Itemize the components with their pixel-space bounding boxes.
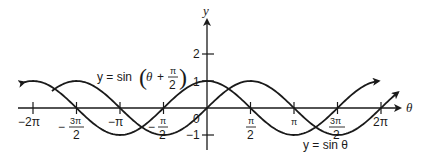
- sine-graph: y θ 2 1 −1 0 −2π − 3π 2 −π − π 2 π 2 π 3…: [0, 0, 424, 161]
- svg-text:π: π: [160, 116, 166, 126]
- x-tick-negpi: −π: [108, 115, 123, 129]
- x-tick-pi: π: [291, 117, 297, 127]
- y-tick-2: 2: [193, 47, 200, 61]
- svg-text:3π: 3π: [70, 116, 81, 126]
- svg-text:3π: 3π: [330, 116, 341, 126]
- svg-text:−: −: [58, 120, 65, 134]
- x-tick-negpi2: − π 2: [148, 116, 168, 142]
- y-tick-1: 1: [193, 75, 200, 89]
- svg-text:): ): [179, 64, 187, 90]
- x-tick-neg3pi2: − 3π 2: [58, 116, 84, 142]
- x-tick-pi2: π 2: [246, 116, 256, 142]
- svg-text:π: π: [170, 66, 176, 76]
- label-sin-theta-plus-half-pi: y = sin ( θ + π 2 ): [97, 64, 187, 92]
- x-axis-label: θ: [406, 100, 413, 115]
- svg-text:y = sin: y = sin: [97, 70, 132, 84]
- svg-text:y = sin θ: y = sin θ: [303, 138, 348, 152]
- svg-text:2: 2: [159, 128, 166, 142]
- svg-text:π: π: [248, 116, 254, 126]
- y-ticks: [202, 54, 214, 135]
- x-tick-2pi: 2π: [373, 115, 388, 129]
- svg-text:2: 2: [169, 78, 176, 92]
- x-tick-neg2pi: −2π: [18, 115, 40, 129]
- origin-label: 0: [193, 112, 200, 126]
- svg-text:2: 2: [247, 128, 254, 142]
- y-axis-label: y: [201, 3, 209, 18]
- svg-text:+: +: [157, 70, 164, 84]
- y-tick-neg1: −1: [186, 128, 200, 142]
- label-sin-theta: y = sin θ: [303, 138, 348, 152]
- svg-text:−: −: [148, 120, 155, 134]
- svg-text:2: 2: [73, 128, 80, 142]
- svg-text:θ: θ: [146, 69, 153, 84]
